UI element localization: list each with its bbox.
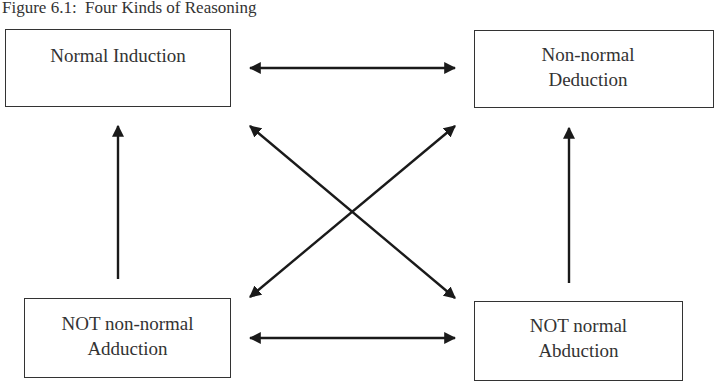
arrows-layer (0, 0, 699, 365)
